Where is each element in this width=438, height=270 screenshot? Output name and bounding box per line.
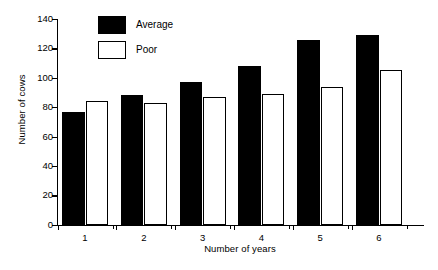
x-tick-mark-minor: [113, 225, 114, 229]
x-tick-mark-minor: [289, 225, 290, 229]
y-tick-label: 60: [42, 131, 53, 142]
x-tick-label-6: 6: [369, 232, 389, 243]
y-tick-label: 100: [37, 72, 53, 83]
y-tick-label: 80: [42, 101, 53, 112]
bar-average-year-2: [121, 95, 144, 224]
bar-poor-year-4: [262, 94, 285, 225]
bar-chart-figure: Number of cows 020406080100120140 123456…: [0, 0, 438, 270]
legend-swatch-average: [98, 16, 126, 34]
bar-average-year-1: [62, 112, 85, 225]
x-tick-mark: [352, 225, 353, 230]
x-tick-label-1: 1: [75, 232, 95, 243]
legend-label-poor: Poor: [136, 44, 157, 55]
bar-average-year-3: [180, 82, 203, 225]
y-tick-label: 120: [37, 42, 53, 53]
bar-average-year-4: [238, 66, 261, 225]
x-tick-mark: [58, 225, 59, 230]
x-tick-mark-minor: [230, 225, 231, 229]
bar-poor-year-3: [203, 97, 226, 225]
y-tick-label: 0: [48, 219, 53, 230]
x-tick-mark: [293, 225, 294, 230]
bar-average-year-5: [297, 40, 320, 225]
y-tick-label: 20: [42, 189, 53, 200]
x-tick-mark: [234, 225, 235, 230]
y-tick-label: 40: [42, 160, 53, 171]
x-axis-title: Number of years: [60, 243, 420, 254]
bar-poor-year-2: [144, 103, 167, 225]
bar-average-year-6: [356, 35, 379, 225]
y-axis-title: Number of cows: [16, 45, 27, 175]
bar-poor-year-5: [321, 87, 344, 225]
x-tick-label-3: 3: [193, 232, 213, 243]
x-tick-label-4: 4: [251, 232, 271, 243]
bar-poor-year-1: [86, 101, 109, 224]
x-tick-mark: [116, 225, 117, 230]
x-tick-mark-minor: [171, 225, 172, 229]
x-tick-mark-minor: [407, 225, 408, 229]
x-tick-label-2: 2: [134, 232, 154, 243]
x-tick-mark: [175, 225, 176, 230]
y-axis-line: [57, 19, 58, 226]
y-tick-label: 140: [37, 13, 53, 24]
legend-label-average: Average: [136, 19, 173, 30]
bar-poor-year-6: [380, 70, 403, 224]
x-tick-label-5: 5: [310, 232, 330, 243]
x-tick-mark-minor: [348, 225, 349, 229]
legend-swatch-poor: [98, 41, 126, 59]
